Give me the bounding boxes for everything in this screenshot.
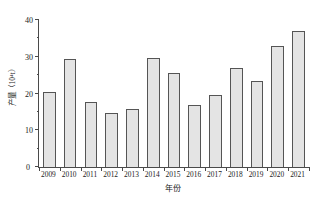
bar	[251, 81, 264, 167]
bar-chart-figure: 产量（10⁴t） 10203040 0 20092010201120122013…	[0, 0, 316, 203]
bar	[230, 68, 243, 167]
bar	[85, 102, 98, 167]
y-tick-label: 40	[25, 16, 33, 25]
bar-slot	[267, 20, 288, 167]
x-tick-label: 2017	[204, 170, 225, 179]
x-tick-label: 2011	[80, 170, 101, 179]
x-tick	[309, 167, 310, 171]
y-axis-title-text: 产量（10⁴t）	[6, 65, 17, 105]
bar	[209, 95, 222, 167]
x-tick-label: 2020	[266, 170, 287, 179]
bar	[188, 105, 201, 167]
bar	[147, 58, 160, 167]
x-tick-label: 2018	[225, 170, 246, 179]
bar-slot	[122, 20, 143, 167]
x-tick-label: 2009	[38, 170, 59, 179]
x-axis-tick-labels: 2009201020112012201320142015201620172018…	[38, 170, 308, 179]
bar-slot	[101, 20, 122, 167]
bar-slot	[184, 20, 205, 167]
x-tick-label: 2013	[121, 170, 142, 179]
bar	[126, 109, 139, 167]
bar-series	[39, 20, 309, 167]
x-tick-label: 2014	[142, 170, 163, 179]
bar	[64, 59, 77, 167]
bar-slot	[81, 20, 102, 167]
x-tick-label: 2012	[100, 170, 121, 179]
x-tick-label: 2019	[246, 170, 267, 179]
bar-slot	[60, 20, 81, 167]
bar-slot	[205, 20, 226, 167]
bar-slot	[288, 20, 309, 167]
bar-slot	[164, 20, 185, 167]
bar	[105, 113, 118, 167]
bar-slot	[143, 20, 164, 167]
plot-area: 10203040	[38, 20, 309, 168]
bar	[271, 46, 284, 167]
bar-slot	[39, 20, 60, 167]
y-axis-zero-label: 0	[26, 163, 30, 172]
y-axis-title: 产量（10⁴t）	[0, 0, 22, 170]
x-axis-title: 年份	[38, 182, 308, 193]
x-tick-label: 2010	[59, 170, 80, 179]
bar-slot	[247, 20, 268, 167]
x-tick-label: 2021	[287, 170, 308, 179]
x-tick-label: 2015	[163, 170, 184, 179]
y-tick-label: 20	[25, 89, 33, 98]
bar	[292, 31, 305, 167]
bar	[43, 92, 56, 167]
x-tick-label: 2016	[183, 170, 204, 179]
y-tick-label: 30	[25, 52, 33, 61]
bar	[168, 73, 181, 167]
y-tick-label: 10	[25, 126, 33, 135]
bar-slot	[226, 20, 247, 167]
